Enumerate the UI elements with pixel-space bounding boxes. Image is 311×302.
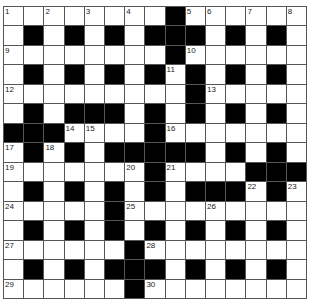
crossword-cell[interactable] xyxy=(186,124,205,142)
crossword-cell[interactable]: 27 xyxy=(4,241,23,259)
crossword-cell[interactable] xyxy=(105,46,124,64)
crossword-cell[interactable]: 17 xyxy=(4,143,23,161)
crossword-cell[interactable] xyxy=(125,26,144,44)
crossword-cell[interactable] xyxy=(105,241,124,259)
crossword-cell[interactable] xyxy=(226,241,245,259)
crossword-cell[interactable] xyxy=(85,221,104,239)
crossword-cell[interactable] xyxy=(246,85,265,103)
crossword-cell[interactable] xyxy=(267,280,286,298)
crossword-cell[interactable] xyxy=(65,85,84,103)
crossword-cell[interactable]: 29 xyxy=(4,280,23,298)
crossword-cell[interactable] xyxy=(246,241,265,259)
crossword-cell[interactable] xyxy=(186,163,205,181)
crossword-cell[interactable]: 24 xyxy=(4,202,23,220)
crossword-cell[interactable] xyxy=(246,46,265,64)
crossword-cell[interactable] xyxy=(246,280,265,298)
crossword-cell[interactable] xyxy=(166,280,185,298)
crossword-cell[interactable] xyxy=(85,280,104,298)
crossword-cell[interactable] xyxy=(287,65,306,83)
crossword-cell[interactable] xyxy=(4,260,23,278)
crossword-cell[interactable] xyxy=(85,46,104,64)
crossword-cell[interactable] xyxy=(85,85,104,103)
crossword-cell[interactable] xyxy=(226,124,245,142)
crossword-cell[interactable] xyxy=(24,280,43,298)
crossword-cell[interactable] xyxy=(44,221,63,239)
crossword-cell[interactable] xyxy=(85,260,104,278)
crossword-cell[interactable] xyxy=(206,46,225,64)
crossword-cell[interactable] xyxy=(105,280,124,298)
crossword-cell[interactable] xyxy=(287,104,306,122)
crossword-cell[interactable] xyxy=(85,182,104,200)
crossword-cell[interactable]: 5 xyxy=(186,7,205,25)
crossword-cell[interactable] xyxy=(44,202,63,220)
crossword-cell[interactable] xyxy=(166,182,185,200)
crossword-cell[interactable] xyxy=(85,241,104,259)
crossword-cell[interactable] xyxy=(145,46,164,64)
crossword-cell[interactable] xyxy=(85,26,104,44)
crossword-cell[interactable] xyxy=(267,202,286,220)
crossword-cell[interactable]: 20 xyxy=(125,163,144,181)
crossword-cell[interactable] xyxy=(145,85,164,103)
crossword-cell[interactable] xyxy=(24,241,43,259)
crossword-cell[interactable] xyxy=(145,7,164,25)
crossword-cell[interactable] xyxy=(125,104,144,122)
crossword-cell[interactable] xyxy=(65,280,84,298)
crossword-cell[interactable] xyxy=(44,241,63,259)
crossword-cell[interactable] xyxy=(105,85,124,103)
crossword-cell[interactable] xyxy=(65,241,84,259)
crossword-cell[interactable] xyxy=(24,163,43,181)
crossword-cell[interactable] xyxy=(246,202,265,220)
crossword-cell[interactable] xyxy=(166,221,185,239)
crossword-cell[interactable] xyxy=(44,46,63,64)
crossword-cell[interactable]: 28 xyxy=(145,241,164,259)
crossword-cell[interactable] xyxy=(85,163,104,181)
crossword-cell[interactable] xyxy=(44,280,63,298)
crossword-cell[interactable] xyxy=(65,7,84,25)
crossword-cell[interactable] xyxy=(166,260,185,278)
crossword-cell[interactable] xyxy=(85,65,104,83)
crossword-cell[interactable]: 18 xyxy=(44,143,63,161)
crossword-cell[interactable] xyxy=(267,124,286,142)
crossword-cell[interactable] xyxy=(287,26,306,44)
crossword-cell[interactable] xyxy=(226,46,245,64)
crossword-cell[interactable] xyxy=(246,124,265,142)
crossword-cell[interactable] xyxy=(44,260,63,278)
crossword-cell[interactable] xyxy=(226,163,245,181)
crossword-cell[interactable] xyxy=(206,280,225,298)
crossword-cell[interactable] xyxy=(186,241,205,259)
crossword-cell[interactable] xyxy=(246,221,265,239)
crossword-cell[interactable] xyxy=(287,124,306,142)
crossword-cell[interactable] xyxy=(246,143,265,161)
crossword-cell[interactable] xyxy=(246,104,265,122)
crossword-cell[interactable] xyxy=(287,85,306,103)
crossword-cell[interactable]: 13 xyxy=(206,85,225,103)
crossword-cell[interactable] xyxy=(105,7,124,25)
crossword-cell[interactable] xyxy=(267,241,286,259)
crossword-cell[interactable] xyxy=(105,124,124,142)
crossword-cell[interactable] xyxy=(24,46,43,64)
crossword-cell[interactable]: 2 xyxy=(44,7,63,25)
crossword-cell[interactable] xyxy=(24,7,43,25)
crossword-cell[interactable] xyxy=(287,260,306,278)
crossword-cell[interactable] xyxy=(206,143,225,161)
crossword-cell[interactable] xyxy=(226,202,245,220)
crossword-cell[interactable] xyxy=(246,26,265,44)
crossword-cell[interactable] xyxy=(206,221,225,239)
crossword-cell[interactable] xyxy=(287,202,306,220)
crossword-cell[interactable] xyxy=(125,46,144,64)
crossword-cell[interactable]: 19 xyxy=(4,163,23,181)
crossword-cell[interactable]: 6 xyxy=(206,7,225,25)
crossword-cell[interactable] xyxy=(246,65,265,83)
crossword-cell[interactable] xyxy=(85,143,104,161)
crossword-cell[interactable] xyxy=(65,163,84,181)
crossword-cell[interactable] xyxy=(105,163,124,181)
crossword-cell[interactable] xyxy=(166,241,185,259)
crossword-cell[interactable] xyxy=(166,104,185,122)
crossword-cell[interactable] xyxy=(145,202,164,220)
crossword-cell[interactable] xyxy=(287,143,306,161)
crossword-cell[interactable]: 26 xyxy=(206,202,225,220)
crossword-cell[interactable]: 3 xyxy=(85,7,104,25)
crossword-cell[interactable]: 15 xyxy=(85,124,104,142)
crossword-cell[interactable]: 1 xyxy=(4,7,23,25)
crossword-cell[interactable] xyxy=(166,85,185,103)
